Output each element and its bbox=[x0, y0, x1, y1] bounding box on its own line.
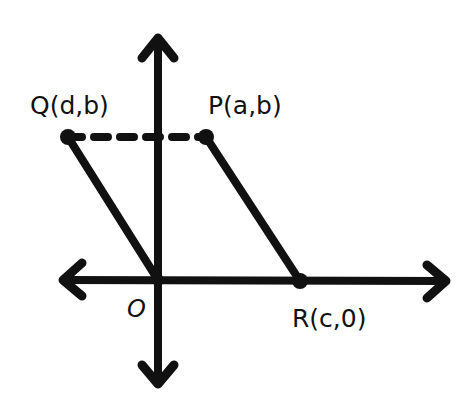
point-r bbox=[292, 273, 308, 289]
point-o bbox=[152, 274, 164, 286]
y-axis bbox=[142, 38, 174, 384]
label-p: P(a,b) bbox=[208, 91, 282, 120]
coordinate-diagram: Q(d,b) P(a,b) R(c,0) O bbox=[0, 0, 474, 401]
label-r: R(c,0) bbox=[292, 304, 366, 333]
point-q bbox=[60, 129, 76, 145]
label-origin: O bbox=[127, 295, 146, 323]
x-axis bbox=[63, 263, 446, 298]
label-q: Q(d,b) bbox=[30, 91, 109, 120]
segment-pr bbox=[206, 137, 300, 281]
point-p bbox=[198, 129, 214, 145]
